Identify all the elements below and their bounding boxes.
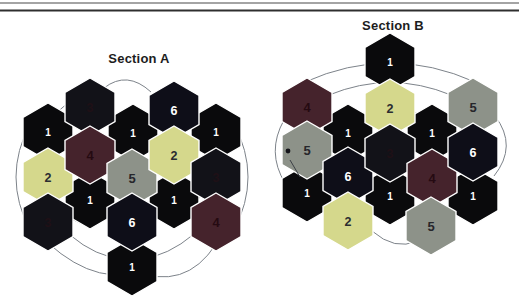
hexagon-number: 1 xyxy=(304,188,310,199)
hexagon-number: 3 xyxy=(387,147,394,161)
hexagon-number: 3 xyxy=(45,216,52,230)
hexagon-number: 4 xyxy=(428,171,436,186)
hexagon-number: 5 xyxy=(128,171,135,186)
hexagon-number: 2 xyxy=(171,149,178,163)
hexagon-number: 1 xyxy=(129,262,135,273)
hexagon-number: 5 xyxy=(427,219,434,234)
hexagon-number: 3 xyxy=(87,101,94,115)
diagram-svg: 11111123345662341111114562234556 xyxy=(0,0,519,303)
hexagon-number: 1 xyxy=(171,195,177,206)
hexagon-number: 1 xyxy=(87,195,93,206)
hexagon-number: 1 xyxy=(429,128,435,139)
hexagon-number: 4 xyxy=(86,148,94,163)
hexagon-number: 1 xyxy=(345,128,351,139)
hexagon-number: 5 xyxy=(303,143,310,158)
hexagon-number: 1 xyxy=(130,128,136,139)
section-a-diagram: 1111112334566234 xyxy=(16,78,248,296)
hexagon-number: 4 xyxy=(212,215,220,230)
hexagon-number: 2 xyxy=(387,102,394,116)
hexagon-number: 6 xyxy=(345,170,352,184)
hexagon-number: 6 xyxy=(129,216,136,230)
hexagon-number: 2 xyxy=(345,215,352,229)
hexagon-number: 4 xyxy=(303,100,311,115)
section-b-diagram: 1111114562234556 xyxy=(275,33,506,255)
hexagon-number: 1 xyxy=(213,127,219,138)
section-b-title: Section B xyxy=(362,18,424,33)
hexagon-number: 1 xyxy=(387,57,393,68)
hexagon-number: 5 xyxy=(469,100,476,115)
hexagon-number: 6 xyxy=(171,104,178,118)
hexagon-number: 3 xyxy=(213,171,220,185)
hexagon-number: 2 xyxy=(45,171,52,185)
hexagon-number: 1 xyxy=(470,191,476,202)
hexagon-number: 1 xyxy=(387,191,393,202)
dot-marker xyxy=(286,149,291,154)
diagram-canvas: 11111123345662341111114562234556 Section… xyxy=(0,0,519,303)
hexagon-number: 1 xyxy=(45,127,51,138)
hexagon-number: 6 xyxy=(470,146,477,160)
section-a-title: Section A xyxy=(108,51,169,66)
